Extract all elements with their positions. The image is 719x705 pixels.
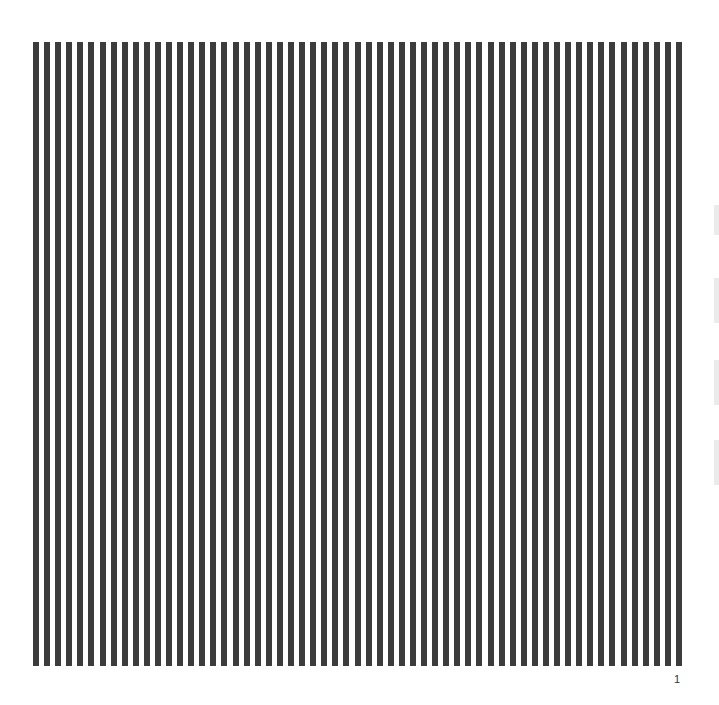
grating-stripe [366,42,372,666]
grating-stripe [465,42,471,666]
grating-stripe [421,42,427,666]
grating-stripe [310,42,316,666]
grating-stripe [399,42,405,666]
grating-stripe [510,42,516,666]
grating-stripe [332,42,338,666]
grating-stripe [177,42,183,666]
grating-stripe [343,42,349,666]
grating-stripe [299,42,305,666]
grating-stripe [476,42,482,666]
scan-bleed-mark [714,278,719,323]
grating-stripe [543,42,549,666]
grating-stripe [133,42,139,666]
grating-stripe [55,42,61,666]
grating-stripe [122,42,128,666]
grating-stripe [321,42,327,666]
grating-stripe [432,42,438,666]
grating-stripe [166,42,172,666]
grating-stripe [377,42,383,666]
grating-stripe [233,42,239,666]
scan-bleed-mark [714,440,719,485]
grating-stripe [410,42,416,666]
grating-stripe [111,42,117,666]
grating-stripe [632,42,638,666]
grating-stripe [199,42,205,666]
grating-stripe [388,42,394,666]
grating-stripe [499,42,505,666]
grating-stripe [288,42,294,666]
grating-stripe [521,42,527,666]
grating-stripe [188,42,194,666]
grating-stripe [565,42,571,666]
grating-stripe [155,42,161,666]
grating-stripe [643,42,649,666]
grating-stripe [598,42,604,666]
grating-stripe [576,42,582,666]
grating-stripe [609,42,615,666]
grating-stripe [665,42,671,666]
grating-stripe [532,42,538,666]
grating-stripe [210,42,216,666]
grating-stripe [587,42,593,666]
scan-bleed-mark [714,360,719,405]
grating-stripe [44,42,50,666]
grating-stripe [266,42,272,666]
grating-stripe [255,42,261,666]
grating-stripe [676,42,682,666]
grating-stripe [33,42,39,666]
grating-stripe [443,42,449,666]
page-number: 1 [674,673,680,685]
grating-stripe [144,42,150,666]
grating-stripe [221,42,227,666]
grating-stripe [554,42,560,666]
grating-stripe [277,42,283,666]
grating-stripe [355,42,361,666]
grating-stripe [244,42,250,666]
grating-stripe [88,42,94,666]
scan-bleed-mark [714,205,719,235]
grating-stripe [100,42,106,666]
grating-stripe [454,42,460,666]
grating-stripe [488,42,494,666]
grating-stripe [66,42,72,666]
vertical-stripe-grating [33,42,682,666]
grating-stripe [621,42,627,666]
grating-stripe [654,42,660,666]
grating-stripe [77,42,83,666]
